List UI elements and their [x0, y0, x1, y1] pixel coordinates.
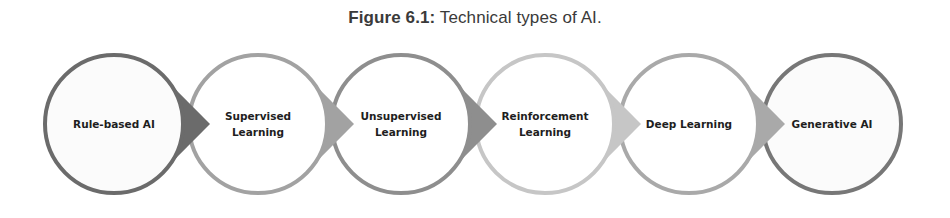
node-label: Deep Learning: [646, 118, 732, 130]
node-1: Rule-based AI: [45, 55, 210, 193]
node-label-line: Learning: [375, 126, 427, 138]
node-label-line: Unsupervised: [361, 110, 442, 122]
node-label: Rule-based AI: [73, 118, 155, 130]
node-label: Generative AI: [792, 118, 873, 130]
node-2: SupervisedLearning: [189, 55, 354, 193]
node-4: ReinforcementLearning: [476, 55, 641, 193]
node-3: UnsupervisedLearning: [332, 55, 497, 193]
node-label-line: Deep Learning: [646, 118, 732, 130]
node-label-line: Learning: [519, 126, 571, 138]
node-label-line: Learning: [232, 126, 284, 138]
ai-types-flow-diagram: Generative AI Deep Learning Reinforcemen…: [0, 0, 950, 218]
node-label-line: Reinforcement: [501, 110, 588, 122]
node-label-line: Rule-based AI: [73, 118, 155, 130]
node-5: Deep Learning: [620, 55, 785, 193]
node-label-line: Supervised: [225, 110, 291, 122]
node-label-line: Generative AI: [792, 118, 873, 130]
